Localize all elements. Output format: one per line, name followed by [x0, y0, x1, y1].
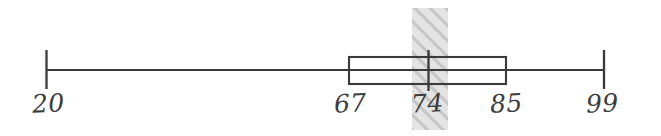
axis-label-q3: 85: [489, 88, 523, 119]
axis-label-median: 74: [410, 88, 444, 119]
box-plot-canvas: [0, 0, 661, 136]
axis-label-min: 20: [31, 88, 65, 119]
box-plot-figure: 20 67 74 85 99: [0, 0, 661, 136]
axis-label-q1: 67: [333, 88, 367, 119]
axis-label-max: 99: [585, 88, 619, 119]
